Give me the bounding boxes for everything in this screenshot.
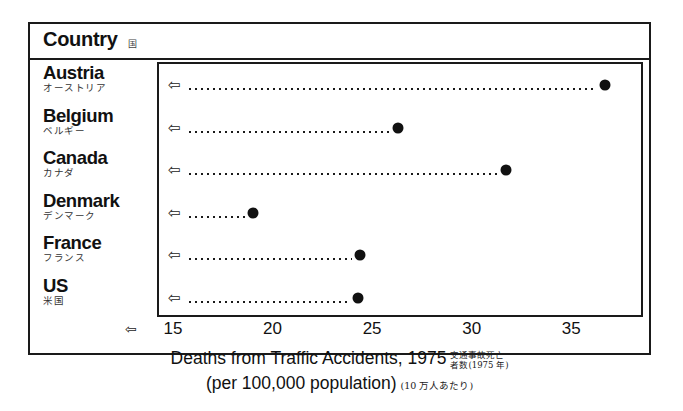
leader-dots xyxy=(189,131,390,133)
header-row: Country 国 xyxy=(30,24,649,60)
caption-ja-b: 者数(1975 年) xyxy=(450,360,508,370)
country-name-en: France xyxy=(43,233,155,252)
data-row-austria: ⇦ xyxy=(159,64,641,107)
country-label-column: AustriaオーストリアBelgiumベルギーCanadaカナダDenmark… xyxy=(43,62,155,317)
data-point-marker xyxy=(600,80,611,91)
x-tick-label-30: 30 xyxy=(462,319,481,339)
caption-line-1-text: Deaths from Traffic Accidents, 1975 xyxy=(171,348,447,368)
caption-line-2-text: (per 100,000 population) xyxy=(206,373,397,393)
country-name-ja: デンマーク xyxy=(43,210,155,221)
leader-dots xyxy=(189,301,350,303)
data-point-marker xyxy=(393,122,404,133)
country-label-us: US米国 xyxy=(43,276,155,306)
country-label-france: Franceフランス xyxy=(43,233,155,263)
country-name-ja: 米国 xyxy=(43,295,155,306)
row-left-arrow-icon: ⇦ xyxy=(168,290,181,305)
x-tick-label-15: 15 xyxy=(163,319,182,339)
x-tick-label-35: 35 xyxy=(562,319,581,339)
caption: Deaths from Traffic Accidents, 1975交通事故死… xyxy=(30,346,649,398)
row-left-arrow-icon: ⇦ xyxy=(168,78,181,93)
country-name-en: US xyxy=(43,276,155,295)
data-point-marker xyxy=(353,292,364,303)
data-point-marker xyxy=(247,207,258,218)
caption-line-1: Deaths from Traffic Accidents, 1975交通事故死… xyxy=(30,346,649,371)
country-name-en: Denmark xyxy=(43,191,155,210)
caption-line-2: (per 100,000 population)(10 万人あたり) xyxy=(30,371,649,398)
country-name-en: Belgium xyxy=(43,106,155,125)
row-left-arrow-icon: ⇦ xyxy=(168,163,181,178)
x-tick-label-25: 25 xyxy=(363,319,382,339)
country-label-canada: Canadaカナダ xyxy=(43,148,155,178)
page-title-japanese: 国 xyxy=(128,37,137,50)
data-row-canada: ⇦ xyxy=(159,149,641,192)
country-label-belgium: Belgiumベルギー xyxy=(43,106,155,136)
data-row-belgium: ⇦ xyxy=(159,107,641,150)
data-row-denmark: ⇦ xyxy=(159,192,641,235)
x-axis: ⇦ 1520253035 xyxy=(157,317,643,343)
row-left-arrow-icon: ⇦ xyxy=(168,205,181,220)
country-name-en: Austria xyxy=(43,63,155,82)
country-name-ja: オーストリア xyxy=(43,82,155,93)
country-name-en: Canada xyxy=(43,148,155,167)
caption-line-2-japanese: (10 万人あたり) xyxy=(401,380,474,391)
country-name-ja: ベルギー xyxy=(43,125,155,136)
row-left-arrow-icon: ⇦ xyxy=(168,248,181,263)
data-row-france: ⇦ xyxy=(159,234,641,277)
leader-dots xyxy=(189,258,352,260)
caption-line-1-japanese: 交通事故死亡者数(1975 年) xyxy=(450,350,508,370)
data-point-marker xyxy=(500,165,511,176)
data-row-us: ⇦ xyxy=(159,277,641,320)
caption-ja-a: 交通事故死亡 xyxy=(450,350,504,360)
leader-dots xyxy=(189,216,245,218)
figure-panel: Country 国 AustriaオーストリアBelgiumベルギーCanada… xyxy=(28,22,651,355)
data-point-marker xyxy=(355,250,366,261)
country-label-austria: Austriaオーストリア xyxy=(43,63,155,93)
row-left-arrow-icon: ⇦ xyxy=(168,120,181,135)
leader-dots xyxy=(189,173,498,175)
country-name-ja: フランス xyxy=(43,252,155,263)
leader-dots xyxy=(189,88,597,90)
country-name-ja: カナダ xyxy=(43,167,155,178)
x-tick-label-20: 20 xyxy=(263,319,282,339)
page-title: Country xyxy=(43,28,118,51)
axis-left-arrow-icon: ⇦ xyxy=(125,322,137,336)
plot-area: ⇦⇦⇦⇦⇦⇦ xyxy=(157,62,643,317)
country-label-denmark: Denmarkデンマーク xyxy=(43,191,155,221)
